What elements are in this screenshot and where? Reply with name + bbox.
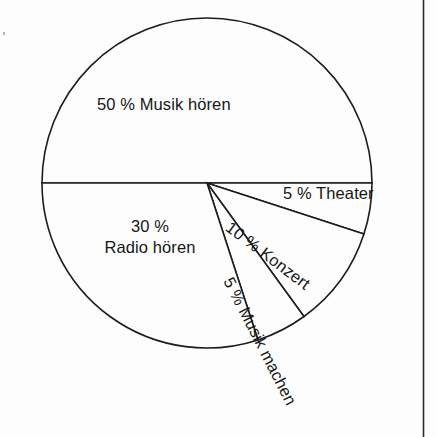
pie-label-radio-hoeren-name: Radio hören (86, 237, 214, 258)
pie-label-radio-hoeren: 30 % Radio hören (86, 216, 214, 258)
pie-label-musik-hoeren: 50 % Musik hören (97, 94, 231, 115)
pie-label-theater: 5 % Theater (283, 183, 374, 204)
scan-speck (3, 32, 5, 35)
pie-label-radio-hoeren-percent: 30 % (86, 216, 214, 237)
pie-chart-graphic (0, 0, 436, 437)
pie-chart-page: 50 % Musik hören 30 % Radio hören 5 % Th… (0, 0, 436, 437)
